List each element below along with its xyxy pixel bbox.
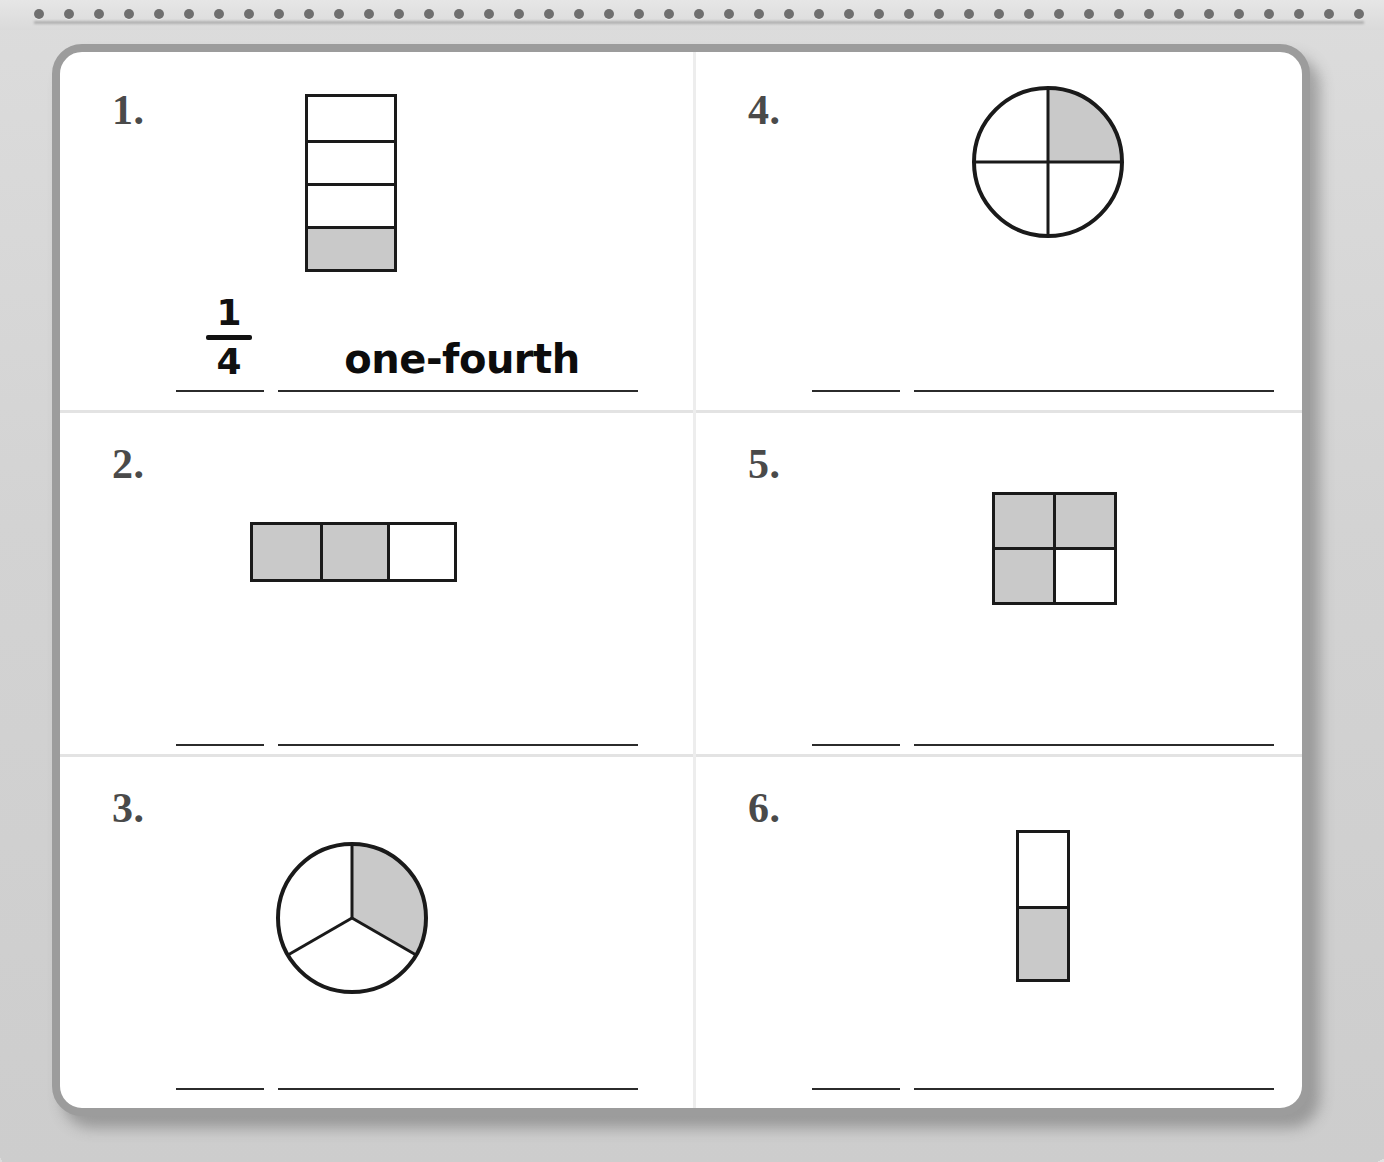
binding-dot (664, 9, 674, 19)
binding-dot (484, 9, 494, 19)
binding-dot-row (34, 8, 1364, 20)
binding-dot (514, 9, 524, 19)
answer-line-fraction[interactable] (176, 390, 264, 392)
binding-dot (574, 9, 584, 19)
fraction-bar (206, 335, 252, 340)
row-divider-1 (60, 410, 1302, 413)
binding-dot (1174, 9, 1184, 19)
binding-dot (994, 9, 1004, 19)
bar-cell (308, 140, 394, 183)
answer-line-word[interactable] (278, 744, 638, 746)
problem-cell-6: 6. (696, 758, 1310, 1108)
binding-dot (94, 9, 104, 19)
binding-dot (244, 9, 254, 19)
fraction-numerator: 1 (198, 295, 260, 333)
problem-number-3: 3. (112, 784, 145, 832)
problem-number-2: 2. (112, 440, 145, 488)
answer-line-word[interactable] (278, 1088, 638, 1090)
bar-cell (308, 97, 394, 140)
bar-cell (308, 183, 394, 226)
binding-dot (154, 9, 164, 19)
binding-dot (124, 9, 134, 19)
binding-dot (1234, 9, 1244, 19)
binding-dot (304, 9, 314, 19)
grid-cell-shaded (1056, 495, 1114, 547)
bar-cell-shaded (1019, 906, 1067, 979)
figure-circle-thirds (272, 838, 432, 1002)
grid-cell-shaded (995, 550, 1053, 602)
answer-line-word[interactable] (914, 744, 1274, 746)
binding-dot (1084, 9, 1094, 19)
binding-dot (1054, 9, 1064, 19)
problem-number-5: 5. (748, 440, 781, 488)
binding-dot (34, 9, 44, 19)
answer-line-fraction[interactable] (812, 390, 900, 392)
binding-dot (874, 9, 884, 19)
binding-dot (964, 9, 974, 19)
answer-lines-1 (60, 368, 693, 392)
binding-dot (694, 9, 704, 19)
grid-cell-shaded (995, 495, 1053, 547)
figure-grid-fourths (992, 492, 1117, 605)
problem-number-6: 6. (748, 784, 781, 832)
binding-dot (364, 9, 374, 19)
bar-cell-shaded (320, 525, 387, 579)
binding-dot (724, 9, 734, 19)
answer-lines-2 (60, 722, 693, 746)
problem-number-1: 1. (112, 86, 145, 134)
problem-cell-4: 4. (696, 60, 1310, 410)
answer-lines-4 (696, 368, 1310, 392)
binding-dot (1324, 9, 1334, 19)
answer-line-word[interactable] (278, 390, 638, 392)
bar-cell (1019, 833, 1067, 906)
figure-bar-vertical-halves (1016, 830, 1070, 982)
binding-dot (1354, 9, 1364, 19)
answer-line-fraction[interactable] (176, 1088, 264, 1090)
binding-dot (424, 9, 434, 19)
problem-cell-1: 1. 1 4 one-fourth (60, 60, 693, 410)
answer-lines-3 (60, 1066, 693, 1090)
bar-cell-shaded (253, 525, 320, 579)
binding-dot (1114, 9, 1124, 19)
binding-dot (1024, 9, 1034, 19)
binding-dot (814, 9, 824, 19)
binding-dot (1294, 9, 1304, 19)
answer-lines-5 (696, 722, 1310, 746)
binding-dot (334, 9, 344, 19)
figure-bar-vertical-fourths (305, 94, 397, 272)
problem-cell-5: 5. (696, 414, 1310, 764)
binding-dot (844, 9, 854, 19)
binding-dot (1204, 9, 1214, 19)
binding-dot (604, 9, 614, 19)
binding-dot (904, 9, 914, 19)
binding-dot (274, 9, 284, 19)
grid-cell (1056, 550, 1114, 602)
answer-line-fraction[interactable] (812, 744, 900, 746)
problem-cell-2: 2. (60, 414, 693, 764)
binding-dot (544, 9, 554, 19)
bar-cell (387, 525, 454, 579)
answer-line-word[interactable] (914, 390, 1274, 392)
binding-dot (934, 9, 944, 19)
problem-cell-3: 3. (60, 758, 693, 1108)
binding-dot (64, 9, 74, 19)
worksheet-card: 1. 1 4 one-fourth 2. (52, 44, 1310, 1116)
bar-cell-shaded (308, 226, 394, 269)
binding-dot (1264, 9, 1274, 19)
answer-line-fraction[interactable] (812, 1088, 900, 1090)
binding-dot-strip (0, 0, 1384, 30)
answer-line-word[interactable] (914, 1088, 1274, 1090)
answer-line-fraction[interactable] (176, 744, 264, 746)
binding-dot (454, 9, 464, 19)
figure-bar-horizontal-thirds (250, 522, 457, 582)
binding-dot (184, 9, 194, 19)
problem-number-4: 4. (748, 86, 781, 134)
binding-dot (1144, 9, 1154, 19)
binding-dot (754, 9, 764, 19)
circle-thirds-svg (272, 838, 432, 998)
sector-divider (288, 918, 352, 955)
binding-dot (784, 9, 794, 19)
figure-circle-quarters (968, 82, 1128, 246)
worksheet-page: 1. 1 4 one-fourth 2. (0, 0, 1384, 1162)
answer-lines-6 (696, 1066, 1310, 1090)
